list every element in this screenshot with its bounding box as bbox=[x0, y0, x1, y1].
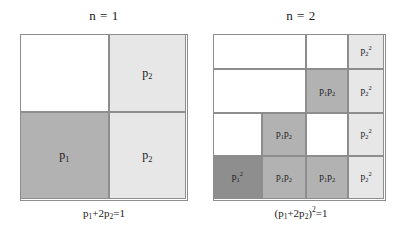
panel-n1-caption: p1+2p2=1 bbox=[8, 206, 200, 222]
cell-r1c1 bbox=[20, 34, 109, 112]
cell-r2c2-label: p2 bbox=[142, 149, 152, 161]
cell-r1c3 bbox=[306, 34, 348, 69]
cell-r4c1-label: p12 bbox=[232, 173, 243, 183]
cell-r2c4-label: p22 bbox=[360, 87, 371, 97]
cell-r4c4: p22 bbox=[348, 156, 384, 199]
panel-n1-grid: p2p1p2 bbox=[20, 34, 188, 201]
panel-n2-title: n = 2 bbox=[205, 8, 397, 24]
panel-n1-title: n = 1 bbox=[8, 8, 200, 24]
figure-root: n = 1 p2p1p2 p1+2p2=1 n = 2 p22p1p2p22p1… bbox=[0, 0, 400, 235]
cell-r4c1: p12 bbox=[213, 156, 262, 199]
cell-r1c12 bbox=[213, 34, 306, 69]
cell-r4c2: p1p2 bbox=[262, 156, 306, 199]
cell-r2c1: p1 bbox=[20, 112, 109, 199]
cell-r3c4: p22 bbox=[348, 113, 384, 156]
cell-r2c2: p2 bbox=[109, 112, 186, 199]
cell-r2c3-label: p1p2 bbox=[319, 87, 335, 97]
cell-r3c4-label: p22 bbox=[360, 130, 371, 140]
cell-r1c4: p22 bbox=[348, 34, 384, 69]
cell-r2c1-label: p1 bbox=[59, 149, 69, 161]
cell-r2c12 bbox=[213, 69, 306, 113]
cell-r4c3-label: p1p2 bbox=[319, 173, 335, 183]
cell-r3c3 bbox=[306, 113, 348, 156]
cell-r3c2-label: p1p2 bbox=[276, 130, 292, 140]
panel-n2: n = 2 p22p1p2p22p1p2p22p12p1p2p1p2p22 (p… bbox=[205, 0, 397, 235]
cell-r2c3: p1p2 bbox=[306, 69, 348, 113]
cell-r3c2: p1p2 bbox=[262, 113, 306, 156]
cell-r1c4-label: p22 bbox=[360, 47, 371, 57]
panel-n2-grid: p22p1p2p22p1p2p22p12p1p2p1p2p22 bbox=[213, 34, 386, 201]
panel-n1: n = 1 p2p1p2 p1+2p2=1 bbox=[8, 0, 200, 235]
panel-n2-caption: (p1+2p2)2=1 bbox=[205, 206, 397, 222]
cell-r1c2-label: p2 bbox=[142, 67, 152, 79]
cell-r4c3: p1p2 bbox=[306, 156, 348, 199]
cell-r4c4-label: p22 bbox=[360, 173, 371, 183]
cell-r3c1 bbox=[213, 113, 262, 156]
cell-r4c2-label: p1p2 bbox=[276, 173, 292, 183]
cell-r2c4: p22 bbox=[348, 69, 384, 113]
cell-r1c2: p2 bbox=[109, 34, 186, 112]
